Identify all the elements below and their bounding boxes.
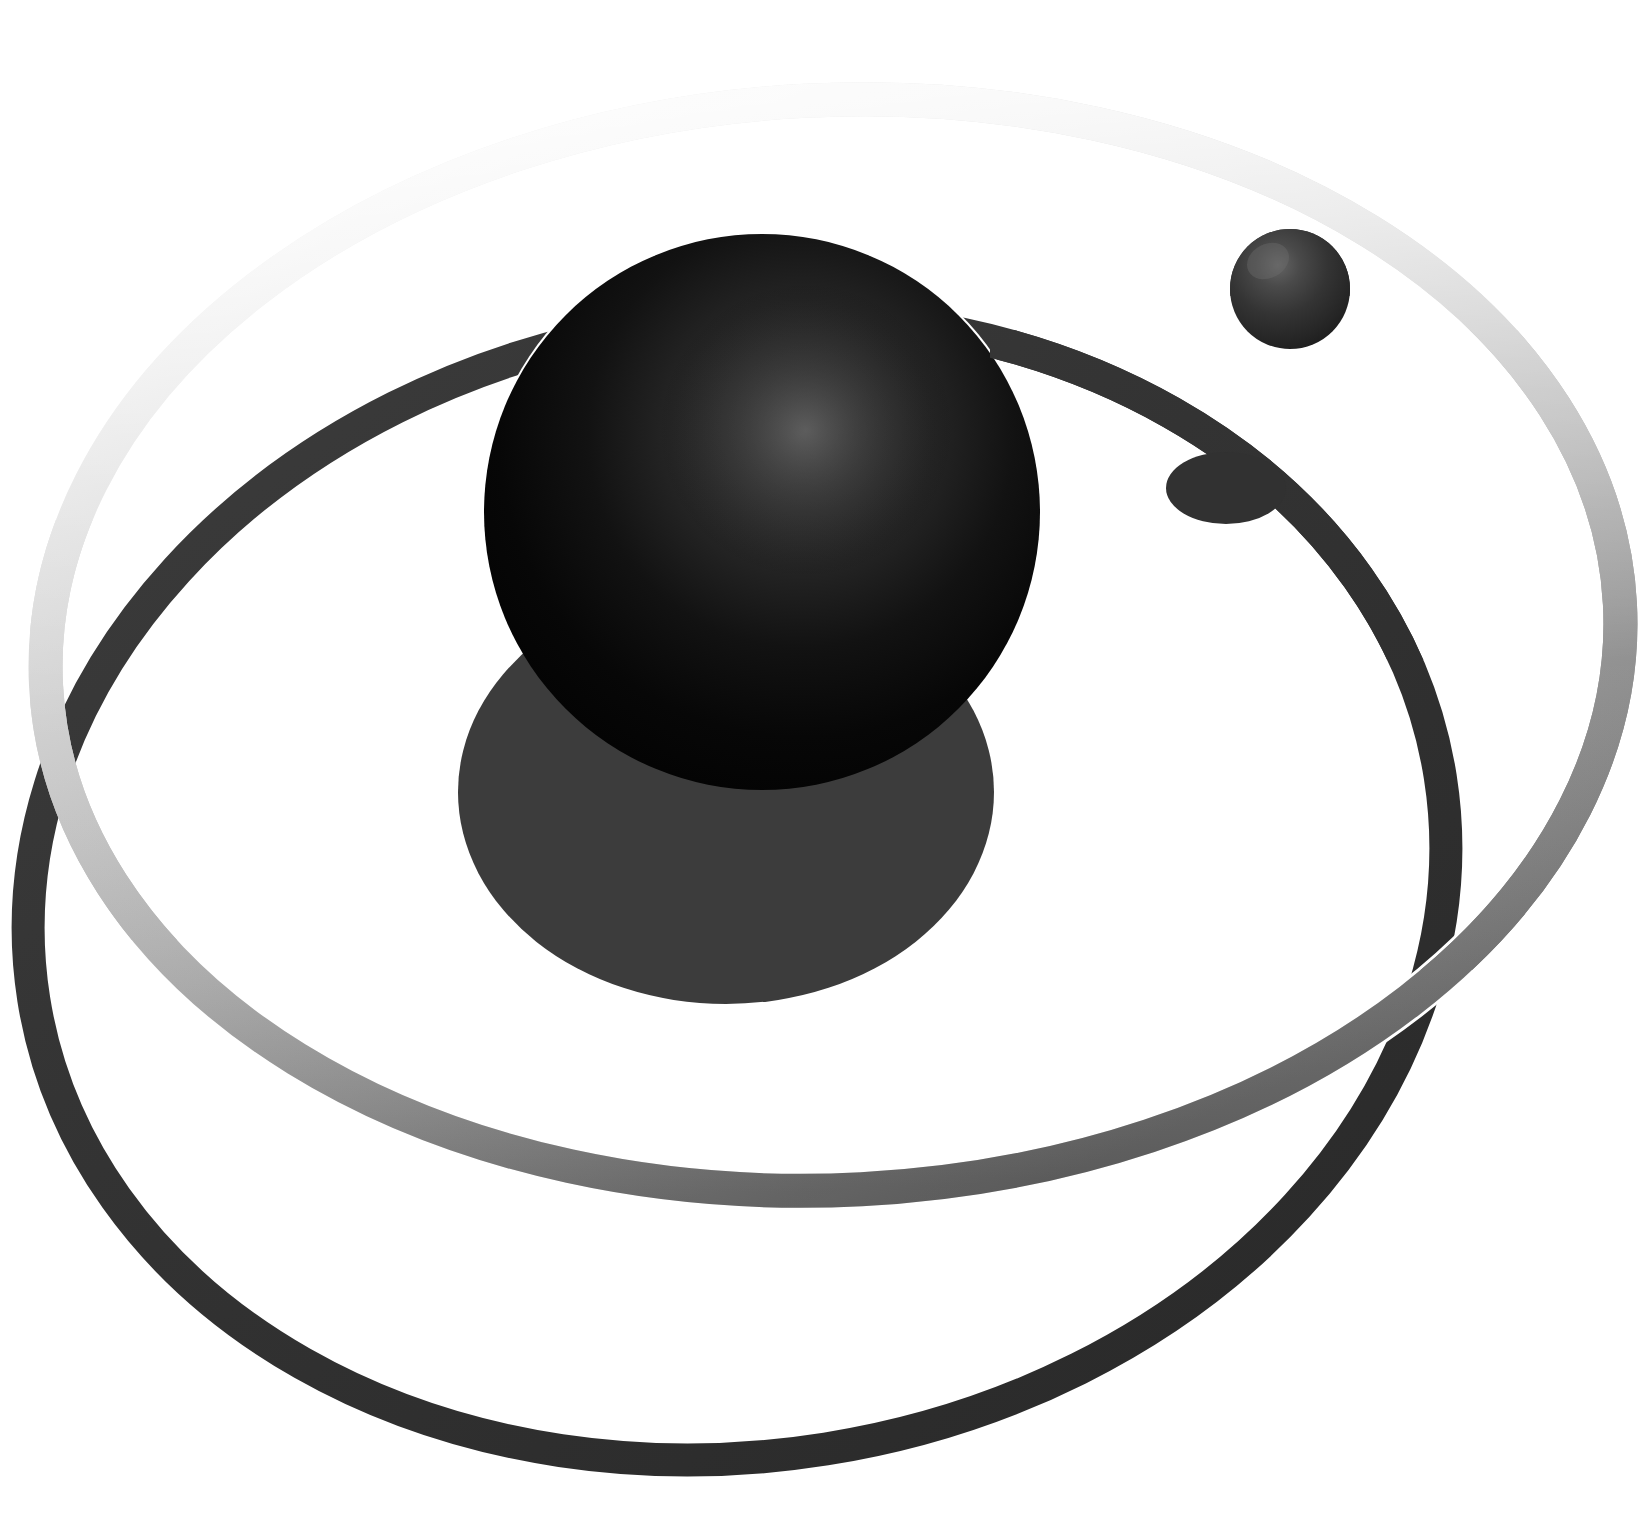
atom-illustration <box>0 0 1648 1520</box>
electron-inner-ring[interactable] <box>1166 452 1286 524</box>
illustration-canvas: Bohr Atom Model Stylized three-dimension… <box>0 0 1648 1520</box>
